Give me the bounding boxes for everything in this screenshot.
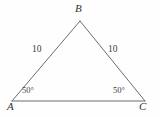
vertex-label-b: B: [75, 3, 82, 14]
geometry-figure: B A C 10 10 50° 50°: [0, 0, 160, 117]
vertex-label-c: C: [139, 101, 146, 112]
side-length-label-ab: 10: [32, 45, 42, 55]
angle-measure-label-c: 50°: [113, 86, 125, 95]
side-length-label-bc: 10: [108, 45, 118, 55]
vertex-label-a: A: [7, 101, 14, 112]
triangle-drawing: [0, 0, 160, 117]
angle-measure-label-a: 50°: [22, 86, 34, 95]
